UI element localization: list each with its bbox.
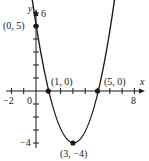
point-1-0 — [46, 88, 51, 93]
parabola-curve — [32, 0, 114, 143]
vertex-point-3-neg4 — [70, 140, 75, 145]
x-tick-label-8: 8 — [131, 95, 136, 106]
point-label-5-0: (5, 0) — [104, 76, 126, 88]
x-tick-label-0: 0 — [27, 95, 32, 106]
point-label-3-neg4: (3, −4) — [60, 148, 87, 160]
point-label-0-5: (0, 5) — [3, 20, 25, 32]
x-axis-arrow-icon — [139, 89, 145, 94]
parabola-chart: y x 6 −4 −2 0 8 (0, 5) (1, 0) (5, 0) (3,… — [0, 0, 149, 161]
y-tick-label-neg4: −4 — [20, 137, 31, 148]
y-axis-label: y — [27, 3, 33, 14]
x-tick-label-neg2: −2 — [3, 95, 14, 106]
y-tick-label-6: 6 — [41, 8, 46, 19]
point-label-1-0: (1, 0) — [51, 76, 73, 88]
x-axis-label: x — [139, 76, 145, 87]
point-5-0 — [95, 88, 100, 93]
point-0-5 — [33, 23, 38, 28]
